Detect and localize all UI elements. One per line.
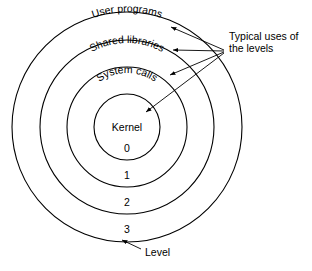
level-number-2: 2	[124, 196, 130, 208]
annotation-level-caption: Level	[145, 246, 170, 258]
ring-label-system-calls: System calls	[94, 63, 160, 84]
kernel-label: Kernel	[112, 121, 142, 133]
ring-label-user-programs: User programs	[90, 2, 164, 20]
level-number-1: 1	[124, 169, 130, 181]
annotation-typical-uses-line1: Typical uses of	[229, 30, 299, 42]
ring-diagram-svg: User programs Shared libraries System ca…	[0, 0, 312, 271]
leader-to-shared-libraries	[173, 50, 224, 51]
level-number-3: 3	[124, 223, 130, 235]
level-number-0: 0	[124, 142, 130, 154]
leader-to-user-programs	[171, 27, 224, 50]
annotation-typical-uses-line2: the levels	[229, 42, 273, 54]
ring-label-shared-libraries: Shared libraries	[87, 33, 167, 54]
figure-canvas: User programs Shared libraries System ca…	[0, 0, 312, 271]
leader-to-system-calls	[170, 52, 224, 75]
